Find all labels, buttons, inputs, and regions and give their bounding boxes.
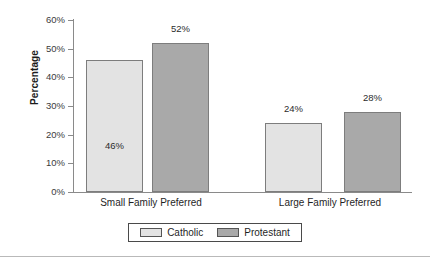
legend-label: Catholic xyxy=(167,227,203,238)
y-tick-label: 20% xyxy=(46,130,65,140)
bar-protestant-large-family[interactable] xyxy=(344,112,401,192)
x-axis-line xyxy=(73,192,412,193)
legend-swatch-icon xyxy=(140,228,162,237)
y-tick-label: 50% xyxy=(46,44,65,54)
legend-swatch-icon xyxy=(217,228,239,237)
legend-item-catholic[interactable]: Catholic xyxy=(140,227,203,238)
plot-area: 46% 52% 24% 28% xyxy=(73,20,412,192)
bar-value-label: 24% xyxy=(265,104,322,114)
y-tick-label: 30% xyxy=(46,101,65,111)
bar-value-label: 46% xyxy=(86,141,143,151)
chart-legend: Catholic Protestant xyxy=(128,223,302,242)
bar-catholic-small-family[interactable] xyxy=(86,60,143,192)
y-tick-label: 10% xyxy=(46,158,65,168)
x-category-label-small-family: Small Family Preferred xyxy=(86,197,216,208)
bar-value-label: 28% xyxy=(344,93,401,103)
y-axis-title: Percentage xyxy=(29,38,40,118)
bar-protestant-small-family[interactable] xyxy=(152,43,209,192)
bar-value-label: 52% xyxy=(152,24,209,34)
x-category-label-large-family: Large Family Preferred xyxy=(265,197,395,208)
bar-catholic-large-family[interactable] xyxy=(265,123,322,192)
legend-item-protestant[interactable]: Protestant xyxy=(217,227,290,238)
y-tick-label: 40% xyxy=(46,72,65,82)
bar-chart-figure: Percentage 60% 50% 40% 30% 20% 10% 0% 46… xyxy=(0,0,430,263)
footer-divider xyxy=(0,256,430,257)
legend-label: Protestant xyxy=(244,227,290,238)
y-tick-label: 60% xyxy=(46,15,65,25)
y-tick-label: 0% xyxy=(51,187,65,197)
